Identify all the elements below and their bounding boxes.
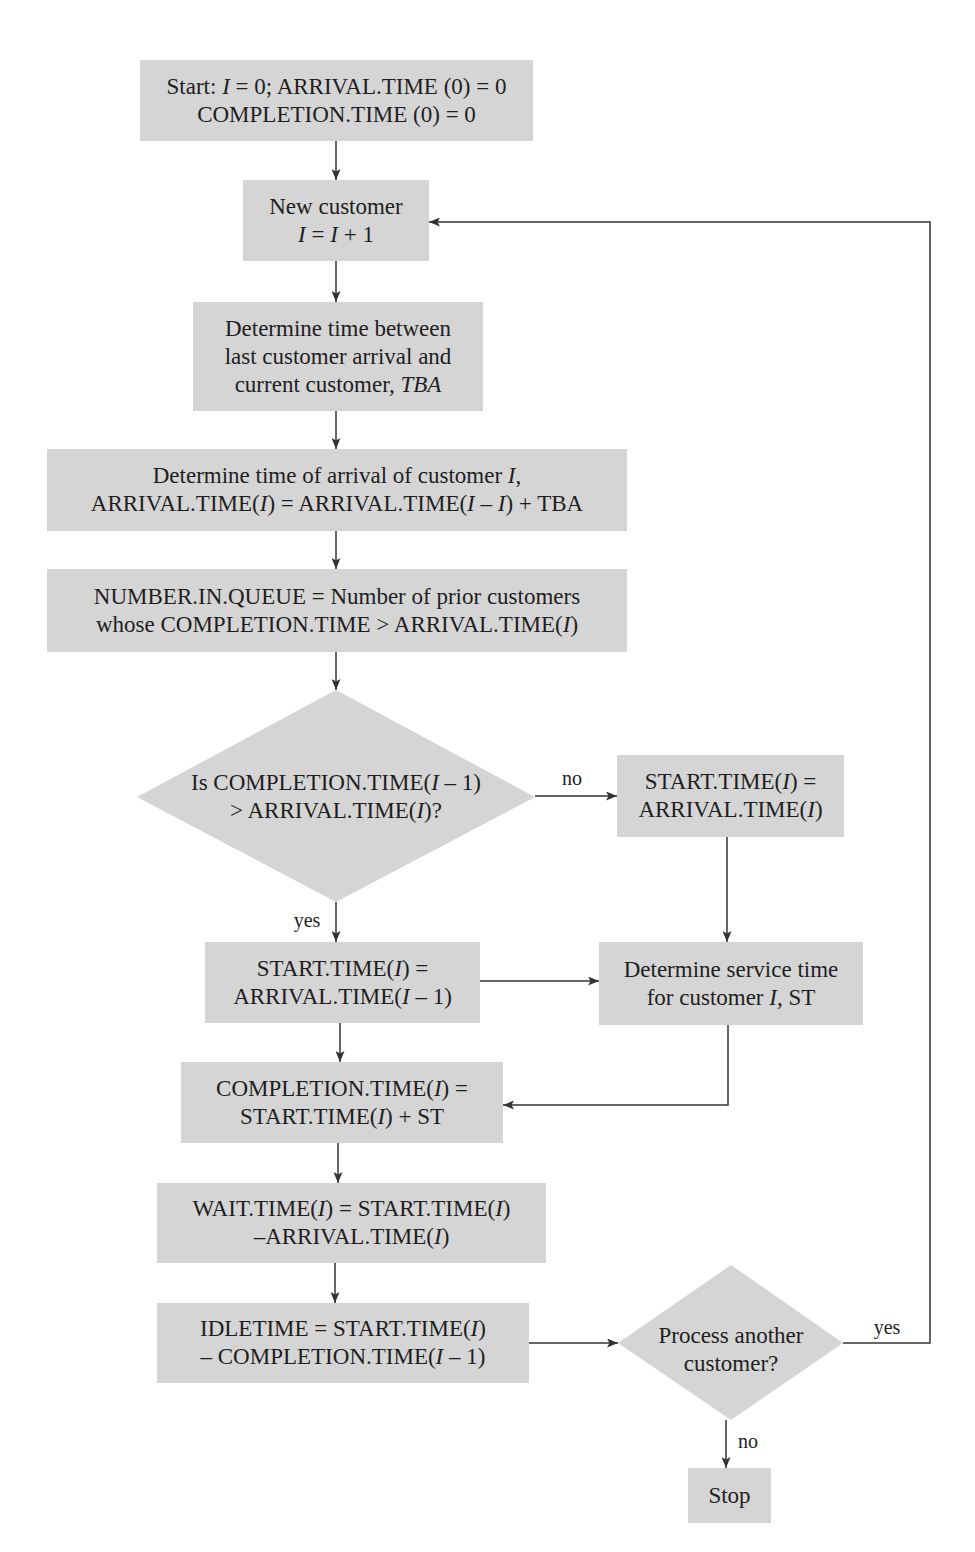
text-line: – COMPLETION.TIME(I – 1) <box>200 1343 486 1371</box>
process-box-number-in-queue-text: NUMBER.IN.QUEUE = Number of prior custom… <box>94 583 580 639</box>
italic-variable: I <box>563 612 571 637</box>
italic-variable: I <box>467 491 475 516</box>
italic-variable: I <box>498 491 506 516</box>
process-box-wait-time-text: WAIT.TIME(I) = START.TIME(I)–ARRIVAL.TIM… <box>192 1195 510 1251</box>
terminal-box-stop: Stop <box>688 1468 771 1523</box>
text-line: ARRIVAL.TIME(I) = ARRIVAL.TIME(I – I) + … <box>91 490 583 518</box>
process-box-new-customer-text: New customerI = I + 1 <box>269 193 403 249</box>
process-box-start-time-yes: START.TIME(I) =ARRIVAL.TIME(I – 1) <box>205 942 480 1023</box>
italic-variable: I <box>769 985 777 1010</box>
text-line: last customer arrival and <box>225 343 452 371</box>
italic-variable: I <box>431 770 439 795</box>
italic-variable: I <box>394 956 402 981</box>
italic-variable: I <box>402 984 410 1009</box>
process-box-new-customer: New customerI = I + 1 <box>243 180 429 261</box>
terminal-box-stop-text: Stop <box>708 1482 750 1510</box>
text-line: Determine service time <box>624 956 839 984</box>
text-line: Determine time of arrival of customer I, <box>91 462 583 490</box>
italic-variable: I <box>416 798 424 823</box>
text-line: whose COMPLETION.TIME > ARRIVAL.TIME(I) <box>94 611 580 639</box>
process-box-time-between-arrivals-text: Determine time betweenlast customer arri… <box>225 315 452 399</box>
italic-variable: I <box>222 74 230 99</box>
text-line: START.TIME(I) = <box>638 768 822 796</box>
process-box-completion-time: COMPLETION.TIME(I) =START.TIME(I) + ST <box>181 1062 503 1143</box>
process-box-start-time-no: START.TIME(I) =ARRIVAL.TIME(I) <box>617 755 844 837</box>
process-box-start-time-yes-text: START.TIME(I) =ARRIVAL.TIME(I – 1) <box>233 955 452 1011</box>
text-line: Is COMPLETION.TIME(I – 1) <box>191 769 481 797</box>
italic-variable: TBA <box>400 372 441 397</box>
text-line: IDLETIME = START.TIME(I) <box>200 1315 486 1343</box>
italic-variable: I <box>318 1196 326 1221</box>
process-box-service-time: Determine service timefor customer I, ST <box>599 942 863 1025</box>
text-line: COMPLETION.TIME(I) = <box>216 1075 468 1103</box>
process-box-number-in-queue: NUMBER.IN.QUEUE = Number of prior custom… <box>47 569 627 652</box>
process-box-time-between-arrivals: Determine time betweenlast customer arri… <box>193 302 483 411</box>
process-box-service-time-text: Determine service timefor customer I, ST <box>624 956 839 1012</box>
italic-variable: I <box>434 1224 442 1249</box>
italic-variable: I <box>377 1104 385 1129</box>
italic-variable: I <box>330 222 338 247</box>
text-line: New customer <box>269 193 403 221</box>
italic-variable: I <box>782 769 790 794</box>
text-line: I = I + 1 <box>269 221 403 249</box>
edge-label-completion-yes: yes <box>294 909 321 931</box>
decision-another-text: Process anothercustomer? <box>631 1322 831 1378</box>
flowchart-canvas: Start: I = 0; ARRIVAL.TIME (0) = 0COMPLE… <box>0 0 975 1552</box>
text-line: ARRIVAL.TIME(I – 1) <box>233 983 452 1011</box>
italic-variable: I <box>495 1196 503 1221</box>
text-line: > ARRIVAL.TIME(I)? <box>230 797 442 825</box>
process-box-wait-time: WAIT.TIME(I) = START.TIME(I)–ARRIVAL.TIM… <box>157 1183 546 1263</box>
text-line: customer? <box>684 1350 779 1378</box>
process-box-arrival-time: Determine time of arrival of customer I,… <box>47 449 627 531</box>
italic-variable: I <box>434 1076 442 1101</box>
text-line: Process another <box>659 1322 804 1350</box>
italic-variable: I <box>260 491 268 516</box>
text-line: Start: I = 0; ARRIVAL.TIME (0) = 0 <box>167 73 507 101</box>
process-box-idle-time-text: IDLETIME = START.TIME(I)– COMPLETION.TIM… <box>200 1315 486 1371</box>
text-line: COMPLETION.TIME (0) = 0 <box>167 101 507 129</box>
text-line: START.TIME(I) = <box>233 955 452 983</box>
arrow-service-to-completion <box>503 1025 728 1105</box>
italic-variable: I <box>508 463 516 488</box>
italic-variable: I <box>471 1316 479 1341</box>
text-line: ARRIVAL.TIME(I) <box>638 796 822 824</box>
text-line: current customer, TBA <box>225 371 452 399</box>
decision-completion-text: Is COMPLETION.TIME(I – 1)> ARRIVAL.TIME(… <box>166 769 506 825</box>
text-line: Determine time between <box>225 315 452 343</box>
text-line: –ARRIVAL.TIME(I) <box>192 1223 510 1251</box>
process-box-completion-time-text: COMPLETION.TIME(I) =START.TIME(I) + ST <box>216 1075 468 1131</box>
italic-variable: I <box>298 222 306 247</box>
text-line: Stop <box>708 1482 750 1510</box>
process-box-start: Start: I = 0; ARRIVAL.TIME (0) = 0COMPLE… <box>140 60 533 141</box>
process-box-start-time-no-text: START.TIME(I) =ARRIVAL.TIME(I) <box>638 768 822 824</box>
italic-variable: I <box>807 797 815 822</box>
text-line: WAIT.TIME(I) = START.TIME(I) <box>192 1195 510 1223</box>
edge-label-completion-no: no <box>562 767 582 789</box>
process-box-start-text: Start: I = 0; ARRIVAL.TIME (0) = 0COMPLE… <box>167 73 507 129</box>
text-line: NUMBER.IN.QUEUE = Number of prior custom… <box>94 583 580 611</box>
process-box-idle-time: IDLETIME = START.TIME(I)– COMPLETION.TIM… <box>157 1303 529 1383</box>
text-line: START.TIME(I) + ST <box>216 1103 468 1131</box>
edge-label-another-yes: yes <box>874 1316 901 1338</box>
text-line: for customer I, ST <box>624 984 839 1012</box>
italic-variable: I <box>436 1344 444 1369</box>
process-box-arrival-time-text: Determine time of arrival of customer I,… <box>91 462 583 518</box>
edge-label-another-no: no <box>738 1430 758 1452</box>
